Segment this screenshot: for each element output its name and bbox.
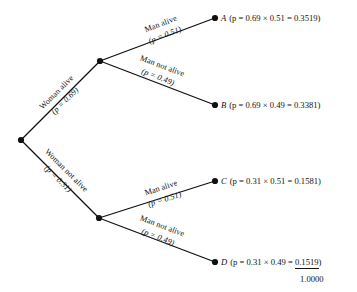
outcome-expression-d-prefix: (p = 0.31 × 0.49 = xyxy=(230,257,295,267)
outcome-expression-d-suffix: ) xyxy=(319,257,322,267)
node-woman-alive xyxy=(97,58,103,64)
outcome-label-a: A(p = 0.69 × 0.51 = 0.3519) xyxy=(221,13,320,23)
total-probability-sum: 1.0000 xyxy=(300,274,324,284)
outcome-letter-c: C xyxy=(221,176,227,186)
node-outcome-b xyxy=(212,102,218,108)
outcome-letter-d: D xyxy=(221,257,227,267)
outcome-expression-a: (p = 0.69 × 0.51 = 0.3519) xyxy=(229,13,320,23)
node-woman-not-alive xyxy=(96,215,102,221)
outcome-label-b: B(p = 0.69 × 0.49 = 0.3381) xyxy=(221,100,320,110)
probability-tree-figure: Woman alive (p = 0.69) Woman not alive (… xyxy=(0,0,357,292)
node-outcome-a xyxy=(212,15,218,21)
outcome-expression-c: (p = 0.31 × 0.51 = 0.1581) xyxy=(230,176,321,186)
node-outcome-d xyxy=(212,259,218,265)
outcome-expression-b: (p = 0.69 × 0.49 = 0.3381) xyxy=(229,100,320,110)
node-root xyxy=(18,137,24,143)
outcome-letter-a: A xyxy=(221,13,226,23)
outcome-expression-d-value: 0.1519 xyxy=(295,257,319,269)
outcome-label-d: D(p = 0.31 × 0.49 = 0.1519) xyxy=(221,257,321,267)
node-outcome-c xyxy=(212,178,218,184)
outcome-letter-b: B xyxy=(221,100,226,110)
outcome-label-c: C(p = 0.31 × 0.51 = 0.1581) xyxy=(221,176,321,186)
